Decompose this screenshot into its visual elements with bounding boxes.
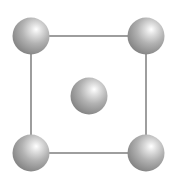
atom-center — [71, 78, 108, 115]
atom-corner-bottom-right — [128, 135, 165, 172]
atom-corner-top-right — [128, 18, 165, 55]
atom-corner-bottom-left — [13, 135, 50, 172]
atoms-group — [13, 18, 165, 172]
lattice-cell-diagram — [0, 0, 174, 188]
atom-corner-top-left — [13, 18, 50, 55]
